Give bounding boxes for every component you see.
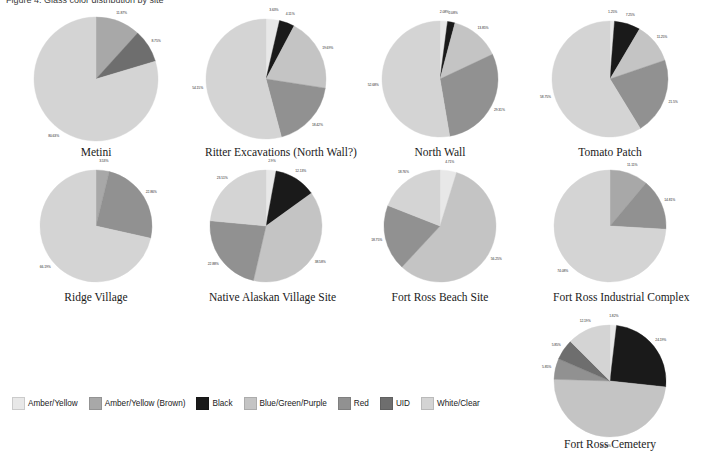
pie-body: 3.63%4.11%19.69%18.42%54.15% [205, 18, 327, 140]
slice-percent-label: 23.51% [217, 176, 228, 180]
slice-percent-label: 11.25% [657, 35, 668, 39]
legend-item: Amber/Yellow (Brown) [89, 397, 186, 410]
legend-label: Red [354, 399, 369, 408]
slice-percent-label: 19.69% [322, 46, 333, 50]
slice-percent-label: 22.86% [146, 190, 157, 194]
legend-item: Red [338, 397, 369, 410]
legend-label: White/Clear [437, 399, 480, 408]
slice-percent-label: 3.53% [99, 159, 108, 163]
slice-percent-label: 13.85% [478, 26, 489, 30]
pie-svg [205, 18, 327, 140]
pie-svg [553, 324, 667, 438]
pie-chart-7: 4.71%56.25%18.75%18.76%Fort Ross Beach S… [383, 169, 497, 283]
slice-percent-label: 1.25% [608, 10, 617, 14]
legend-swatch-icon [338, 397, 351, 410]
pie-chart-2: 3.63%4.11%19.69%18.42%54.15%Ritter Excav… [205, 18, 327, 140]
slice-percent-label: 3.63% [269, 8, 278, 12]
slice-percent-label: 5.85% [542, 365, 551, 369]
legend-label: Black [212, 399, 232, 408]
pie-body: 11.11%14.81%74.08% [553, 169, 667, 283]
pie-body: 3.53%22.86%66.19% [39, 169, 153, 283]
slice-percent-label: 21.5% [668, 100, 677, 104]
chart-title: Ridge Village [39, 291, 153, 303]
slice-percent-label: 4.11% [286, 12, 295, 16]
chart-title: Fort Ross Industrial Complex [553, 291, 667, 303]
chart-title: Fort Ross Cemetery [553, 438, 667, 450]
slice-percent-label: 18.42% [312, 123, 323, 127]
pie-svg [39, 169, 153, 283]
legend-swatch-icon [89, 397, 102, 410]
legend-item: Amber/Yellow [12, 397, 78, 410]
legend-swatch-icon [244, 397, 257, 410]
legend-swatch-icon [196, 397, 209, 410]
pie-chart-9: 1.82%24.19%47.55%5.85%5.85%12.19%Fort Ro… [553, 324, 667, 438]
pie-svg [553, 169, 667, 283]
legend-swatch-icon [12, 397, 25, 410]
legend-swatch-icon [380, 397, 393, 410]
pie-svg [33, 16, 159, 142]
slice-percent-label: 7.25% [626, 13, 635, 17]
legend-item: UID [380, 397, 410, 410]
pie-body: 4.71%56.25%18.75%18.76% [383, 169, 497, 283]
pie-body: 1.25%7.25%11.25%21.5%58.75% [551, 20, 669, 138]
chart-title: Ritter Excavations (North Wall?) [205, 146, 327, 158]
slice-percent-label: 38.58% [315, 260, 326, 264]
figure-header: Figure 4. Glass color distribution by si… [0, 0, 707, 7]
slice-percent-label: 56.25% [491, 257, 502, 261]
pie-slice [610, 325, 666, 387]
pie-svg [209, 169, 323, 283]
pie-chart-1: 11.87%8.75%80.63%Metini [33, 16, 159, 142]
pie-svg [381, 20, 499, 138]
figure-root: Figure 4. Glass color distribution by si… [0, 0, 707, 469]
slice-percent-label: 2.08% [448, 11, 457, 15]
pie-slice [382, 21, 450, 137]
slice-percent-label: 58.75% [540, 95, 551, 99]
legend-swatch-icon [421, 397, 434, 410]
pie-body: 2.9%12.13%38.58%22.88%23.51% [209, 169, 323, 283]
slice-percent-label: 18.76% [398, 170, 409, 174]
legend-label: Amber/Yellow [28, 399, 78, 408]
slice-percent-label: 29.31% [494, 108, 505, 112]
legend-item: White/Clear [421, 397, 480, 410]
pie-chart-8: 11.11%14.81%74.08%Fort Ross Industrial C… [553, 169, 667, 283]
chart-title: Metini [33, 146, 159, 158]
slice-percent-label: 1.82% [609, 314, 618, 318]
slice-percent-label: 4.71% [445, 160, 454, 164]
legend-label: Blue/Green/Purple [260, 399, 327, 408]
slice-percent-label: 74.08% [557, 269, 568, 273]
pie-body: 11.87%8.75%80.63% [33, 16, 159, 142]
legend: Amber/YellowAmber/Yellow (Brown)BlackBlu… [12, 397, 491, 410]
slice-percent-label: 11.87% [116, 11, 127, 15]
pie-chart-3: 2.08%2.08%13.85%29.31%52.68%North Wall [381, 20, 499, 138]
slice-percent-label: 11.11% [627, 163, 637, 167]
slice-percent-label: 12.13% [295, 169, 306, 173]
figure-header-text: Figure 4. Glass color distribution by si… [6, 0, 164, 5]
legend-item: Blue/Green/Purple [244, 397, 327, 410]
chart-title: Native Alaskan Village Site [209, 291, 323, 303]
pie-svg [383, 169, 497, 283]
slice-percent-label: 5.85% [552, 343, 561, 347]
chart-title: Tomato Patch [551, 146, 669, 158]
slice-percent-label: 2.9% [268, 159, 275, 163]
slice-percent-label: 18.75% [371, 238, 382, 242]
slice-percent-label: 12.19% [580, 319, 591, 323]
pie-chart-6: 2.9%12.13%38.58%22.88%23.51%Native Alask… [209, 169, 323, 283]
pie-slice [554, 379, 666, 437]
slice-percent-label: 54.15% [192, 86, 203, 90]
slice-percent-label: 14.81% [664, 198, 675, 202]
slice-percent-label: 80.63% [48, 134, 59, 138]
slice-percent-label: 52.68% [368, 83, 379, 87]
pie-chart-4: 1.25%7.25%11.25%21.5%58.75%Tomato Patch [551, 20, 669, 138]
pie-svg [551, 20, 669, 138]
slice-percent-label: 22.88% [208, 262, 219, 266]
pie-body: 2.08%2.08%13.85%29.31%52.68% [381, 20, 499, 138]
slice-percent-label: 66.19% [40, 265, 51, 269]
slice-percent-label: 24.19% [655, 338, 666, 342]
legend-label: UID [396, 399, 410, 408]
pie-body: 1.82%24.19%47.55%5.85%5.85%12.19% [553, 324, 667, 438]
slice-percent-label: 8.75% [151, 39, 160, 43]
legend-label: Amber/Yellow (Brown) [105, 399, 186, 408]
pie-chart-5: 3.53%22.86%66.19%Ridge Village [39, 169, 153, 283]
chart-title: North Wall [381, 146, 499, 158]
chart-title: Fort Ross Beach Site [383, 291, 497, 303]
